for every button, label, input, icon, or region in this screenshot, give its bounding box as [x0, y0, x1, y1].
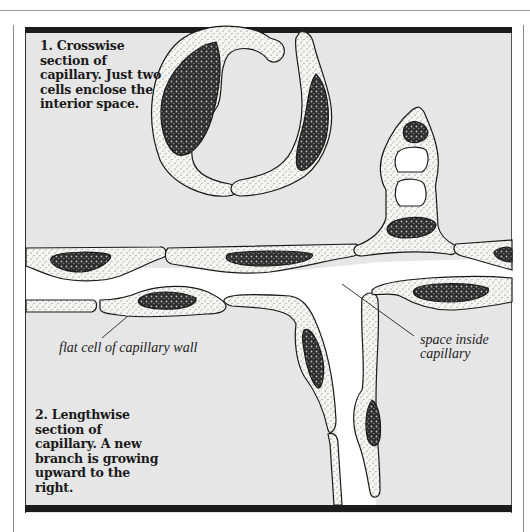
label-space-inside: space inside capillary: [420, 333, 510, 361]
down-branch-nucleus-right: [366, 400, 381, 446]
lower-wall-cell-1: [26, 300, 97, 312]
caption-lengthwise: 2. Lengthwise section of capillary. A ne…: [35, 408, 165, 495]
upward-branch-lumen-1: [395, 147, 428, 172]
panel-bottom-bar: [25, 505, 512, 512]
lower-wall-nucleus-2: [138, 292, 196, 309]
label-flat-cell: flat cell of capillary wall: [59, 341, 197, 355]
upward-branch-nucleus-top: [403, 122, 428, 143]
upward-branch-lumen-2: [395, 179, 426, 206]
caption-crosswise: 1. Crosswise section of capillary. Just …: [40, 39, 165, 112]
leader-flat-cell: [102, 316, 128, 338]
crosswise-section: [152, 26, 332, 196]
